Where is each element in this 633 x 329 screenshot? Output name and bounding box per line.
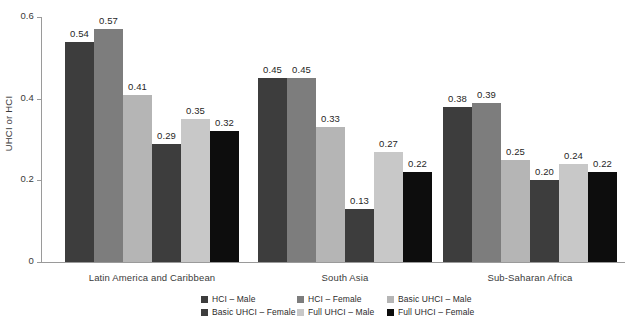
bar: 0.22 <box>588 17 617 262</box>
y-axis-tick-label: 0 <box>29 255 34 266</box>
y-axis-tick-label: 0.4 <box>20 92 34 103</box>
bar-rect <box>210 131 239 262</box>
bar-rect <box>65 42 94 263</box>
bar-value-label: 0.25 <box>506 146 525 157</box>
bar-rect <box>403 172 432 262</box>
bar-value-label: 0.32 <box>215 117 234 128</box>
bar: 0.24 <box>559 17 588 262</box>
y-axis-tick-label: 0.2 <box>20 173 34 184</box>
bar-rect <box>588 172 617 262</box>
bar: 0.25 <box>501 17 530 262</box>
bar-value-label: 0.20 <box>535 166 554 177</box>
bar: 0.54 <box>65 17 94 262</box>
bar: 0.38 <box>443 17 472 262</box>
legend-swatch-icon <box>297 309 304 316</box>
legend-swatch-icon <box>387 309 394 316</box>
bar: 0.45 <box>258 17 287 262</box>
bar-chart: UHCI or HCI 00.20.40.6 0.540.570.410.290… <box>0 0 633 329</box>
bar: 0.57 <box>94 17 123 262</box>
bar-group: 0.450.450.330.130.270.22 <box>258 17 432 262</box>
bar: 0.45 <box>287 17 316 262</box>
bar: 0.39 <box>472 17 501 262</box>
bar-rect <box>316 127 345 262</box>
bar-value-label: 0.13 <box>350 195 369 206</box>
bar-value-label: 0.22 <box>408 158 427 169</box>
legend-swatch-icon <box>387 296 394 303</box>
bar: 0.13 <box>345 17 374 262</box>
bar-rect <box>472 103 501 262</box>
clipped-title-artifact <box>186 0 486 3</box>
bar-value-label: 0.45 <box>263 64 282 75</box>
legend-label: Basic UHCI – Male <box>398 295 472 304</box>
legend-label: Basic UHCI – Female <box>212 308 296 317</box>
tick-mark <box>37 262 41 263</box>
bar-group: 0.540.570.410.290.350.32 <box>65 17 239 262</box>
bar: 0.29 <box>152 17 181 262</box>
legend-row: Basic UHCI – FemaleFull UHCI – MaleFull … <box>201 308 466 321</box>
bar-value-label: 0.35 <box>186 105 205 116</box>
bar-rect <box>345 209 374 262</box>
bar-rect <box>123 95 152 262</box>
bar-rect <box>181 119 210 262</box>
bar-rect <box>530 180 559 262</box>
y-axis-title: UHCI or HCI <box>3 64 14 184</box>
legend-swatch-icon <box>201 296 208 303</box>
bar: 0.20 <box>530 17 559 262</box>
y-axis-tick-label: 0.6 <box>20 10 34 21</box>
bar-value-label: 0.22 <box>593 158 612 169</box>
bar-value-label: 0.45 <box>292 64 311 75</box>
bar-rect <box>443 107 472 262</box>
bar: 0.33 <box>316 17 345 262</box>
bar-rect <box>287 78 316 262</box>
legend-item[interactable]: Basic UHCI – Female <box>201 308 296 317</box>
bar-rect <box>258 78 287 262</box>
legend-label: Full UHCI – Male <box>308 308 374 317</box>
bar: 0.27 <box>374 17 403 262</box>
bar: 0.35 <box>181 17 210 262</box>
legend-label: HCI – Female <box>308 295 362 304</box>
legend-item[interactable]: HCI – Male <box>201 295 256 304</box>
bar-value-label: 0.57 <box>99 15 118 26</box>
bar-value-label: 0.39 <box>477 89 496 100</box>
legend-label: HCI – Male <box>212 295 256 304</box>
bar-rect <box>559 164 588 262</box>
bar: 0.41 <box>123 17 152 262</box>
legend-item[interactable]: Basic UHCI – Male <box>387 295 472 304</box>
bar-rect <box>94 29 123 262</box>
bar-rect <box>374 152 403 262</box>
bar-value-label: 0.54 <box>70 28 89 39</box>
bar-group: 0.380.390.250.200.240.22 <box>443 17 617 262</box>
legend: HCI – MaleHCI – FemaleBasic UHCI – Male … <box>201 295 466 321</box>
legend-swatch-icon <box>297 296 304 303</box>
bar-rect <box>152 144 181 262</box>
bar-value-label: 0.24 <box>564 150 583 161</box>
x-axis-category-label: Sub-Saharan Africa <box>443 272 617 283</box>
legend-item[interactable]: Full UHCI – Male <box>297 308 374 317</box>
bar-value-label: 0.38 <box>448 93 467 104</box>
plot-area: 0.540.570.410.290.350.320.450.450.330.13… <box>41 17 624 262</box>
x-axis-category-label: Latin America and Caribbean <box>65 272 239 283</box>
bar: 0.22 <box>403 17 432 262</box>
bar-value-label: 0.33 <box>321 113 340 124</box>
bar: 0.32 <box>210 17 239 262</box>
x-axis-category-label: South Asia <box>258 272 432 283</box>
legend-label: Full UHCI – Female <box>398 308 474 317</box>
legend-item[interactable]: HCI – Female <box>297 295 362 304</box>
bar-rect <box>501 160 530 262</box>
x-axis-line <box>41 262 625 263</box>
bar-value-label: 0.41 <box>128 81 147 92</box>
legend-swatch-icon <box>201 309 208 316</box>
bar-value-label: 0.27 <box>379 138 398 149</box>
legend-item[interactable]: Full UHCI – Female <box>387 308 474 317</box>
bar-value-label: 0.29 <box>157 130 176 141</box>
